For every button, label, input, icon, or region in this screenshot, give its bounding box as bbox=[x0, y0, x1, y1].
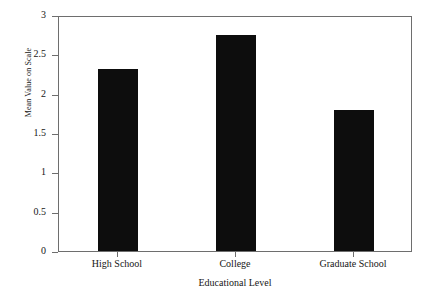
y-axis-tick-label: 1.5 bbox=[34, 127, 47, 138]
y-axis-tick-label: 0.5 bbox=[34, 206, 47, 217]
y-axis-tick-mark bbox=[52, 252, 58, 253]
x-axis-tick-label: College bbox=[175, 258, 295, 269]
bar-chart-figure: Mean Value on Scale 00.511.522.53 High S… bbox=[0, 0, 431, 301]
x-axis-tick-label: Graduate School bbox=[293, 258, 413, 269]
y-axis-tick-label: 0 bbox=[41, 245, 46, 256]
x-axis-tick-mark bbox=[235, 252, 236, 257]
y-axis-tick-label: 2 bbox=[41, 88, 46, 99]
x-axis-tick-mark bbox=[117, 252, 118, 257]
x-axis-tick-mark bbox=[353, 252, 354, 257]
plot-area bbox=[58, 16, 412, 252]
x-axis-tick-label: High School bbox=[57, 258, 177, 269]
bar bbox=[98, 69, 138, 251]
bar bbox=[334, 110, 374, 251]
y-axis-tick-label: 2.5 bbox=[34, 48, 47, 59]
y-axis-tick-label: 1 bbox=[41, 166, 46, 177]
x-axis-title: Educational Level bbox=[58, 277, 412, 288]
y-axis-tick-label: 3 bbox=[41, 9, 46, 20]
bar bbox=[216, 35, 256, 251]
y-axis-title: Mean Value on Scale bbox=[24, 3, 33, 163]
